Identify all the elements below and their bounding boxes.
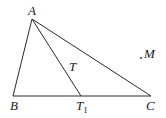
label-A: A bbox=[28, 4, 36, 17]
segment-AT1 bbox=[32, 19, 81, 96]
point-M bbox=[140, 57, 142, 59]
label-T: T bbox=[69, 60, 76, 73]
segment-AB bbox=[13, 19, 32, 96]
label-C: C bbox=[146, 99, 155, 112]
label-T1: T1 bbox=[76, 99, 88, 115]
label-T1-subscript: 1 bbox=[83, 105, 88, 115]
label-B: B bbox=[10, 99, 18, 112]
label-M: M bbox=[144, 47, 155, 60]
segment-AC bbox=[32, 19, 151, 96]
geometry-diagram: A B C T T1 M bbox=[0, 0, 166, 118]
